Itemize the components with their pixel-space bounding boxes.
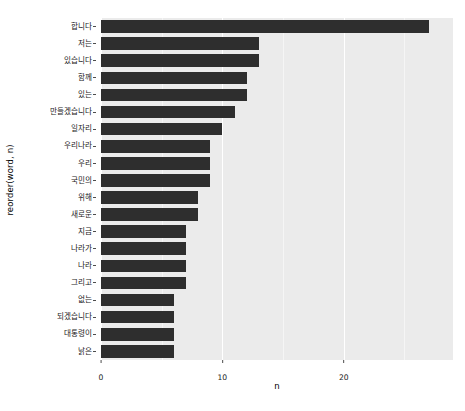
bar	[101, 208, 198, 221]
bar-row	[101, 138, 453, 155]
y-axis-tick-label: 있습니다	[64, 57, 92, 65]
y-axis-tick-mark	[93, 197, 96, 198]
y-axis-tick-mark	[93, 265, 96, 266]
y-axis-tick-10: 위해	[18, 189, 96, 206]
y-axis-tick-1: 저는	[18, 35, 96, 52]
bar	[101, 20, 429, 33]
y-axis-tick-11: 새로운	[18, 206, 96, 223]
bar	[101, 37, 259, 50]
y-axis-tick-label: 우리나라	[64, 142, 92, 150]
y-axis-tick-14: 나라	[18, 257, 96, 274]
y-axis-tick-mark	[93, 300, 96, 301]
y-axis-tick-16: 없는	[18, 292, 96, 309]
x-axis-title: n	[101, 381, 453, 391]
y-axis-tick-3: 함께	[18, 69, 96, 86]
y-axis-tick-label: 합니다	[71, 23, 92, 31]
y-axis-tick-mark	[93, 180, 96, 181]
plot-panel	[101, 18, 453, 360]
bar	[101, 191, 198, 204]
y-axis-tick-mark	[93, 351, 96, 352]
y-axis-tick-12: 지금	[18, 223, 96, 240]
bar	[101, 242, 186, 255]
y-axis-tick-label: 되겠습니다	[57, 313, 92, 321]
bar-row	[101, 343, 453, 360]
y-axis-tick-label: 국민의	[71, 177, 92, 185]
bar-row	[101, 52, 453, 69]
bar-row	[101, 103, 453, 120]
x-axis-tick-mark	[101, 360, 102, 363]
bar	[101, 89, 247, 102]
bar-row	[101, 155, 453, 172]
y-axis-tick-label: 일자리	[71, 125, 92, 133]
bar-row	[101, 257, 453, 274]
y-axis-tick-18: 대통령이	[18, 326, 96, 343]
bar-row	[101, 274, 453, 291]
bar	[101, 157, 210, 170]
bar-row	[101, 18, 453, 35]
y-axis-tick-label: 함께	[78, 74, 92, 82]
y-axis-tick-mark	[93, 231, 96, 232]
y-axis-tick-label: 낡은	[78, 348, 92, 356]
y-axis-tick-label: 그리고	[71, 279, 92, 287]
y-axis-tick-mark	[93, 129, 96, 130]
x-axis: 01020	[101, 360, 453, 382]
bar-row	[101, 240, 453, 257]
y-axis-tick-label: 위해	[78, 194, 92, 202]
y-axis-tick-0: 합니다	[18, 18, 96, 35]
bar	[101, 260, 186, 273]
bar	[101, 106, 235, 119]
y-axis-tick-mark	[93, 112, 96, 113]
bar-row	[101, 86, 453, 103]
bar-row	[101, 189, 453, 206]
bar-row	[101, 292, 453, 309]
y-axis-tick-mark	[93, 146, 96, 147]
y-axis-tick-mark	[93, 60, 96, 61]
y-axis-tick-labels: 합니다저는있습니다함께있는만들겠습니다일자리우리나라우리국민의위해새로운지금나라…	[18, 18, 96, 360]
y-axis-tick-label: 저는	[78, 40, 92, 48]
bar	[101, 225, 186, 238]
y-axis-tick-label: 있는	[78, 91, 92, 99]
bar	[101, 328, 174, 341]
bar	[101, 54, 259, 67]
bar	[101, 294, 174, 307]
bar-row	[101, 172, 453, 189]
y-axis-tick-label: 대통령이	[64, 330, 92, 338]
bar	[101, 123, 222, 136]
x-axis-tick-mark	[222, 360, 223, 363]
bar	[101, 311, 174, 324]
bar	[101, 72, 247, 85]
y-axis-tick-8: 우리	[18, 155, 96, 172]
y-axis-tick-19: 낡은	[18, 343, 96, 360]
y-axis-title-text: reorder(word, n)	[5, 144, 15, 215]
y-axis-tick-mark	[93, 248, 96, 249]
bar-row	[101, 326, 453, 343]
bar	[101, 345, 174, 358]
y-axis-tick-6: 일자리	[18, 121, 96, 138]
y-axis-tick-17: 되겠습니다	[18, 309, 96, 326]
y-axis-tick-mark	[93, 163, 96, 164]
y-axis-title: reorder(word, n)	[0, 0, 20, 360]
bars-layer	[101, 18, 453, 360]
y-axis-tick-mark	[93, 26, 96, 27]
y-axis-tick-9: 국민의	[18, 172, 96, 189]
y-axis-tick-mark	[93, 214, 96, 215]
y-axis-tick-label: 없는	[78, 296, 92, 304]
bar	[101, 174, 210, 187]
y-axis-tick-mark	[93, 317, 96, 318]
y-axis-tick-label: 지금	[78, 228, 92, 236]
bar	[101, 277, 186, 290]
y-axis-tick-13: 나라가	[18, 240, 96, 257]
bar-row	[101, 121, 453, 138]
y-axis-tick-7: 우리나라	[18, 138, 96, 155]
bar-row	[101, 309, 453, 326]
y-axis-tick-mark	[93, 43, 96, 44]
y-axis-tick-mark	[93, 94, 96, 95]
y-axis-tick-2: 있습니다	[18, 52, 96, 69]
y-axis-tick-4: 있는	[18, 86, 96, 103]
y-axis-tick-mark	[93, 334, 96, 335]
bar-row	[101, 35, 453, 52]
y-axis-tick-mark	[93, 77, 96, 78]
bar-chart: reorder(word, n) 합니다저는있습니다함께있는만들겠습니다일자리우…	[0, 0, 465, 411]
y-axis-tick-mark	[93, 282, 96, 283]
y-axis-tick-label: 새로운	[71, 211, 92, 219]
